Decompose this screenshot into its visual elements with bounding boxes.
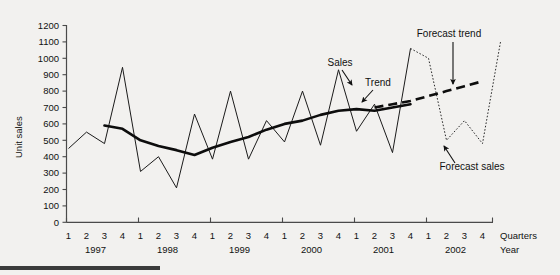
line-chart-svg: 0 100 200 300 400 500 600 700 800 900 10… bbox=[0, 0, 560, 275]
annotation-trend-leader bbox=[362, 90, 373, 102]
x-tick-label-quarter: 3 bbox=[102, 230, 107, 241]
x-axis: 123412341234123412341234 199719981999200… bbox=[66, 218, 537, 256]
x-tick-label-quarter: 2 bbox=[372, 230, 377, 241]
x-tick-label-quarter: 1 bbox=[210, 230, 215, 241]
x-axis-title-year: Year bbox=[500, 244, 519, 255]
y-axis: 0 100 200 300 400 500 600 700 800 900 10… bbox=[13, 20, 67, 228]
bottom-rule bbox=[0, 266, 160, 270]
x-tick-label-quarter: 2 bbox=[156, 230, 161, 241]
x-tick-label-year: 1999 bbox=[229, 244, 250, 255]
series-forecast-sales-line bbox=[411, 42, 501, 144]
annotation-group-trend: Trend bbox=[362, 77, 391, 102]
series-sales-line bbox=[69, 48, 411, 187]
annotation-forecast-sales-label: Forecast sales bbox=[439, 161, 504, 172]
y-axis-tick-labels: 0 100 200 300 400 500 600 700 800 900 10… bbox=[38, 20, 59, 228]
x-tick-label-quarter: 4 bbox=[480, 230, 485, 241]
annotation-group-forecast-sales: Forecast sales bbox=[439, 146, 504, 172]
y-tick-label: 400 bbox=[43, 151, 59, 162]
chart-container: 0 100 200 300 400 500 600 700 800 900 10… bbox=[0, 0, 560, 275]
annotation-group-sales: Sales bbox=[327, 57, 352, 85]
x-tick-label-quarter: 3 bbox=[246, 230, 251, 241]
y-tick-label: 700 bbox=[43, 102, 59, 113]
x-tick-label-quarter: 4 bbox=[120, 230, 125, 241]
annotation-sales-label: Sales bbox=[327, 57, 352, 68]
x-tick-label-quarter: 2 bbox=[444, 230, 449, 241]
y-tick-label: 100 bbox=[43, 200, 59, 211]
x-tick-label-quarter: 3 bbox=[390, 230, 395, 241]
x-tick-label-year: 2002 bbox=[445, 244, 466, 255]
x-tick-label-year: 1997 bbox=[85, 244, 106, 255]
x-tick-label-year: 2000 bbox=[301, 244, 322, 255]
x-tick-label-quarter: 4 bbox=[264, 230, 269, 241]
y-tick-label: 200 bbox=[43, 184, 59, 195]
annotation-forecast-trend-label: Forecast trend bbox=[417, 28, 481, 39]
x-tick-label-quarter: 2 bbox=[84, 230, 89, 241]
y-tick-label: 1000 bbox=[38, 53, 59, 64]
y-axis-title: Unit sales bbox=[13, 116, 24, 158]
x-tick-label-quarter: 1 bbox=[354, 230, 359, 241]
x-tick-label-quarter: 3 bbox=[174, 230, 179, 241]
y-tick-label: 0 bbox=[54, 217, 59, 228]
x-tick-label-quarter: 1 bbox=[138, 230, 143, 241]
x-tick-label-year: 1998 bbox=[157, 244, 178, 255]
x-tick-label-quarter: 2 bbox=[228, 230, 233, 241]
x-tick-label-year: 2001 bbox=[373, 244, 394, 255]
y-tick-label: 1100 bbox=[39, 36, 59, 47]
x-axis-year-labels: 199719981999200020012002 bbox=[85, 244, 466, 255]
x-tick-label-quarter: 1 bbox=[426, 230, 431, 241]
x-tick-label-quarter: 4 bbox=[408, 230, 413, 241]
y-tick-label: 1200 bbox=[38, 20, 59, 31]
x-tick-label-quarter: 1 bbox=[282, 230, 287, 241]
annotation-sales-leader bbox=[342, 70, 352, 85]
y-tick-label: 800 bbox=[43, 85, 59, 96]
series-trend-line bbox=[105, 104, 411, 155]
y-tick-label: 300 bbox=[43, 167, 59, 178]
x-axis-title-quarters: Quarters bbox=[500, 230, 537, 241]
x-tick-label-quarter: 1 bbox=[66, 230, 71, 241]
x-tick-label-quarter: 2 bbox=[300, 230, 305, 241]
y-tick-label: 900 bbox=[43, 69, 59, 80]
x-tick-label-quarter: 4 bbox=[336, 230, 341, 241]
x-tick-label-quarter: 4 bbox=[192, 230, 197, 241]
annotation-group-forecast-trend: Forecast trend bbox=[417, 28, 481, 84]
x-tick-label-quarter: 3 bbox=[318, 230, 323, 241]
x-tick-label-quarter: 3 bbox=[462, 230, 467, 241]
x-axis-quarter-labels: 123412341234123412341234 bbox=[66, 230, 485, 241]
y-tick-label: 600 bbox=[43, 118, 59, 129]
y-tick-label: 500 bbox=[43, 135, 59, 146]
annotation-trend-label: Trend bbox=[365, 77, 391, 88]
